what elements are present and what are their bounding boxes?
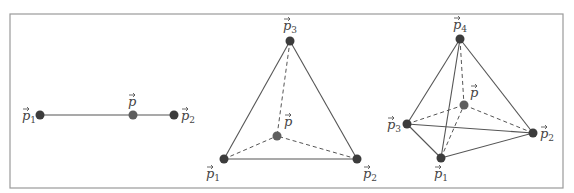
vertex-label-p2: p2: [363, 166, 377, 183]
solid-edge: [407, 39, 460, 124]
interior-point-label: p: [284, 114, 293, 129]
solid-edge: [441, 39, 460, 158]
vertex-p3-dot: [286, 37, 295, 46]
solid-edge: [407, 124, 533, 133]
dashed-edge: [277, 136, 357, 159]
panel-triangle-2d: p1p2p3p: [206, 17, 377, 183]
vertex-p2-dot: [353, 155, 362, 164]
panel-segment-1d: p1p2p: [22, 93, 195, 125]
vertex-p3-dot: [403, 120, 412, 129]
dashed-edge: [224, 136, 277, 159]
interior-point-dot: [129, 111, 138, 120]
dashed-edge: [407, 105, 464, 124]
panels-group: p1p2pp1p2p3pp1p2p3p4p: [22, 16, 554, 183]
barycentric-simplex-diagram: p1p2pp1p2p3pp1p2p3p4p: [0, 0, 574, 193]
vertex-label-p2: p2: [181, 108, 195, 125]
interior-point-label: p: [470, 85, 479, 100]
solid-edge: [290, 41, 357, 159]
vertex-label-p1: p1: [206, 166, 220, 183]
vertex-label-p3: p3: [283, 18, 297, 35]
vertex-label-p1: p1: [434, 166, 448, 183]
solid-edge: [407, 124, 441, 158]
vertex-label-p4: p4: [453, 17, 467, 34]
vertex-p1-dot: [220, 155, 229, 164]
panel-tetrahedron-3d: p1p2p3p4p: [387, 16, 554, 183]
vertex-label-p1: p1: [22, 108, 36, 125]
vertex-p1-dot: [437, 154, 446, 163]
solid-edge: [224, 41, 290, 159]
dashed-edge: [441, 105, 464, 158]
interior-point-label: p: [128, 94, 137, 109]
solid-edge: [441, 133, 533, 158]
dashed-edge: [460, 39, 464, 105]
vertex-p2-dot: [529, 129, 538, 138]
interior-point-dot: [273, 132, 282, 141]
vertex-p4-dot: [456, 35, 465, 44]
vertex-p1-dot: [36, 111, 45, 120]
vertex-p2-dot: [170, 111, 179, 120]
interior-point-dot: [460, 101, 469, 110]
vertex-label-p3: p3: [387, 117, 401, 134]
vertex-label-p2: p2: [540, 126, 554, 143]
